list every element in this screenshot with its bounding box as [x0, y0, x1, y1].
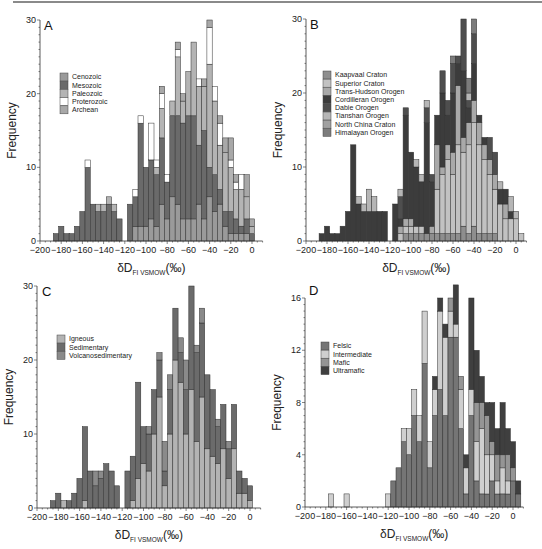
y-tick-label: 8: [296, 398, 301, 408]
bar-segment: [247, 486, 252, 501]
bar-segment: [382, 211, 387, 241]
bar-segment: [461, 19, 466, 71]
legend-swatch: [60, 89, 68, 97]
bar-segment: [170, 116, 175, 197]
bar-segment: [183, 434, 188, 508]
bar-segment: [168, 434, 173, 508]
bar-segment: [157, 397, 162, 508]
bar-segment: [212, 175, 217, 212]
bar-segment: [505, 429, 510, 455]
bar-segment: [199, 323, 204, 397]
bar-segment: [175, 57, 180, 116]
bar-segment: [403, 234, 408, 241]
bar-segment: [401, 429, 406, 442]
legend-label: Tianshan Orogen: [335, 112, 389, 120]
bar-segment: [471, 226, 476, 241]
bar-segment: [194, 345, 199, 352]
legend-swatch: [321, 350, 329, 358]
x-tick-label: 0: [249, 245, 254, 255]
y-axis-title: Frequency: [2, 369, 16, 426]
bar-segment: [133, 197, 138, 227]
bar-segment: [482, 137, 487, 144]
bar-segment: [386, 494, 391, 507]
legend-swatch: [323, 87, 331, 95]
bar-segment: [372, 197, 377, 212]
legend-label: Kaapvaal Craton: [335, 71, 387, 79]
bar-segment: [175, 204, 180, 241]
bar-segment: [56, 493, 61, 508]
y-tick-label: 20: [292, 88, 302, 98]
bar-segment: [456, 234, 461, 241]
bar-segment: [207, 20, 212, 27]
bar-segment: [487, 174, 492, 233]
bar-segment: [487, 137, 492, 159]
bar-segment: [469, 298, 474, 389]
bar-segment: [453, 285, 458, 324]
x-tick-label: −20: [487, 245, 502, 255]
bar-segment: [154, 160, 159, 167]
x-tick-label: 0: [510, 511, 515, 521]
bar-segment: [173, 308, 178, 360]
bar-segment: [212, 86, 217, 101]
bar-segment: [440, 234, 445, 241]
bar-segment: [414, 234, 419, 241]
bar-segment: [479, 403, 484, 429]
x-tick-label: −180: [51, 245, 71, 255]
bar-segment: [466, 93, 471, 100]
x-axis-title: δDFI VSMOW(‰): [117, 261, 185, 276]
bar-segment: [340, 226, 345, 241]
bar-segment: [510, 481, 515, 507]
bar-segment: [223, 153, 228, 212]
bar-segment: [345, 211, 350, 241]
y-tick-label: 30: [26, 15, 36, 25]
bar-segment: [226, 449, 231, 479]
bar-segment: [223, 212, 228, 227]
legend-label: Volcanosedimentary: [69, 352, 133, 360]
bar-segment: [500, 403, 505, 455]
x-tick-label: −200: [27, 512, 47, 522]
bar-segment: [170, 197, 175, 241]
bar-segment: [424, 234, 429, 241]
bar-segment: [453, 324, 458, 337]
bar-segment: [435, 145, 440, 189]
bar-segment: [207, 64, 212, 167]
legend: CenozoicMesozoicPaleozoicProterozoicArch…: [60, 73, 108, 114]
bar-segment: [510, 442, 515, 468]
bar-segment: [424, 108, 429, 123]
x-tick-label: −40: [464, 511, 479, 521]
bar-segment: [445, 100, 450, 115]
bar-segment: [173, 360, 178, 508]
bar-segment: [159, 108, 164, 137]
bar-segment: [96, 212, 101, 242]
bar-segment: [461, 226, 466, 241]
bar-segment: [495, 494, 500, 507]
bar-segment: [396, 468, 401, 507]
bar-segment: [471, 63, 476, 100]
bar-segment: [519, 234, 524, 241]
x-tick-label: −100: [133, 512, 153, 522]
bar-segment: [202, 219, 207, 241]
legend-label: Ultramafic: [333, 367, 365, 374]
x-tick-label: −80: [157, 512, 172, 522]
bar-segment: [319, 234, 324, 241]
bar-segment: [424, 123, 429, 234]
bar-segment: [183, 360, 188, 390]
bar-segment: [414, 160, 419, 167]
bar-segment: [146, 427, 151, 434]
x-tick-label: −140: [357, 511, 377, 521]
bar-segment: [159, 204, 164, 241]
bar-segment: [344, 494, 349, 507]
x-tick-label: −180: [48, 512, 68, 522]
figure-canvas: −200−180−160−140−120−100−80−60−40−200010…: [0, 0, 542, 549]
bar-segment: [487, 234, 492, 241]
bar-segment: [440, 174, 445, 233]
bar-segment: [372, 211, 377, 241]
bar-segment: [218, 116, 223, 123]
bar-segment: [117, 219, 122, 241]
bar-segment: [361, 204, 366, 211]
bar-segment: [438, 311, 443, 389]
x-tick-label: −60: [181, 245, 196, 255]
legend-label: North China Craton: [335, 121, 395, 128]
bar-segment: [366, 211, 371, 241]
bar-segment: [127, 204, 132, 241]
